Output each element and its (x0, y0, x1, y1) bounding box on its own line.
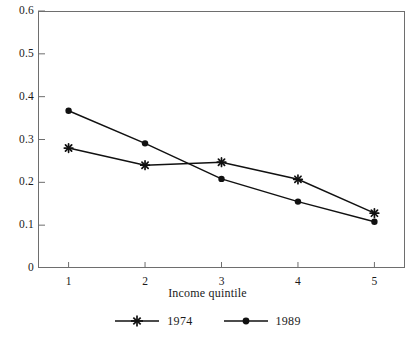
circle-marker-icon (223, 314, 269, 328)
x-axis-title: Income quintile (0, 286, 415, 300)
legend-entry-1974: 1974 (114, 314, 192, 328)
legend-label-1989: 1989 (276, 315, 301, 327)
line-chart-figure: 00.10.20.30.40.50.6 12345 Income quintil… (0, 0, 415, 337)
legend-label-1974: 1974 (167, 315, 192, 327)
legend-entry-1989: 1989 (223, 314, 301, 328)
star-plus-marker-icon (114, 314, 160, 328)
chart-legend: 1974 1989 (0, 314, 415, 328)
